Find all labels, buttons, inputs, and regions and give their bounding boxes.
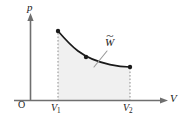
- x-tick-label-v1: V1: [51, 103, 61, 115]
- curve-point-start: [56, 29, 60, 33]
- curve-point-middle: [84, 55, 88, 59]
- x-axis-label: V: [170, 93, 177, 104]
- x-tick-label-v2-subscript: 2: [129, 107, 133, 115]
- curve-point-end: [128, 65, 132, 69]
- work-annotation-label: ~W: [105, 37, 114, 48]
- x-tick-label-v2: V2: [123, 103, 133, 115]
- pv-diagram-figure: p V O V1 V2 ~W: [0, 0, 182, 127]
- tilde-accent-icon: ~: [106, 32, 113, 41]
- y-axis-arrowhead: [27, 13, 33, 21]
- origin-label: O: [18, 100, 25, 110]
- work-annotation-wrap: ~W: [105, 37, 114, 48]
- pv-diagram-canvas: [0, 0, 182, 127]
- x-tick-label-v1-subscript: 1: [57, 107, 61, 115]
- y-axis-label: p: [27, 2, 33, 13]
- x-axis-arrowhead: [160, 97, 168, 103]
